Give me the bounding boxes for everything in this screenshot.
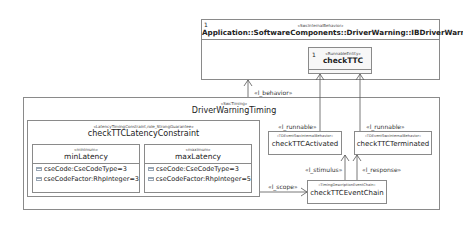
behavior-relation-label: «l_behavior» xyxy=(254,89,292,96)
behavior-multiplicity: 1 xyxy=(204,22,208,28)
event-chain-box[interactable]: «TimingDescriptionEventChain» checkTTCEv… xyxy=(307,180,387,204)
min-attribute-row[interactable]: cseCode:CseCodeType=3 xyxy=(33,164,139,174)
min-attribute-text: cseCodeFactor:RhpInteger=3 xyxy=(44,174,139,184)
attribute-icon xyxy=(148,167,154,171)
event-chain-name: checkTTCEventChain xyxy=(308,188,386,198)
activated-name: checkTTCActivated xyxy=(269,139,341,149)
runnable-multiplicity: 1 xyxy=(312,52,316,58)
behavior-divider xyxy=(202,39,439,40)
max-attribute-row[interactable]: cseCode:CseCodeType=3 xyxy=(145,164,251,174)
max-attribute-row[interactable]: cseCodeFactor:RhpInteger=5 xyxy=(145,174,251,184)
min-latency-box[interactable]: «minimum» minLatency cseCode:CseCodeType… xyxy=(32,144,140,193)
min-attribute-row[interactable]: cseCodeFactor:RhpInteger=3 xyxy=(33,174,139,184)
stimulus-relation-label: «l_stimulus» xyxy=(305,166,342,173)
attribute-icon xyxy=(148,177,154,181)
max-name: maxLatency xyxy=(145,152,251,162)
attribute-icon xyxy=(36,177,42,181)
response-relation-label: «l_response» xyxy=(362,166,401,173)
max-attribute-text: cseCode:CseCodeType=3 xyxy=(156,164,239,174)
min-attribute-text: cseCode:CseCodeType=3 xyxy=(44,164,127,174)
runnable-divider xyxy=(309,69,371,70)
scope-relation-label: «l_scope» xyxy=(268,183,298,190)
event-terminated-box[interactable]: «TDEventSwcInternalBehavior» checkTTCTer… xyxy=(354,131,432,155)
event-activated-box[interactable]: «TDEventSwcInternalBehavior» checkTTCAct… xyxy=(268,131,342,155)
timing-name: DriverWarningTiming xyxy=(174,106,294,116)
runnable-name: checkTTC xyxy=(309,56,371,66)
max-attribute-text: cseCodeFactor:RhpInteger=5 xyxy=(156,174,251,184)
max-latency-box[interactable]: «maximum» maxLatency cseCode:CseCodeType… xyxy=(144,144,252,193)
terminated-name: checkTTCTerminated xyxy=(355,139,431,149)
runnable-relation-label: «l_runnable» xyxy=(278,123,317,130)
attribute-icon xyxy=(36,167,42,171)
behavior-name: Application::SoftwareComponents::DriverW… xyxy=(202,28,439,37)
min-name: minLatency xyxy=(33,152,139,162)
constraint-name: checkTTCLatencyConstraint xyxy=(28,129,259,139)
runnable-entity-checkttc[interactable]: 1 «RunnableEntity» checkTTC xyxy=(308,47,372,74)
runnable-relation-label: «l_runnable» xyxy=(366,123,405,130)
